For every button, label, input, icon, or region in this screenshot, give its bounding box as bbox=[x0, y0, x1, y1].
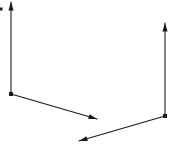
left-frame-diagonal-axis-arrow bbox=[11, 94, 97, 119]
right-frame-diagonal-axis-arrow bbox=[79, 116, 165, 141]
right-frame-vertical-axis-arrow-head bbox=[162, 23, 167, 32]
left-frame-diagonal-axis-arrow-head bbox=[88, 114, 97, 119]
stray-dot bbox=[0, 8, 3, 11]
coordinate-frames-diagram bbox=[0, 0, 173, 146]
diagram-canvas bbox=[0, 0, 173, 146]
right-frame-origin-dot bbox=[163, 114, 167, 118]
left-frame-origin-dot bbox=[9, 92, 13, 96]
left-frame-vertical-axis-arrow-head bbox=[8, 2, 13, 11]
right-frame-diagonal-axis-arrow-head bbox=[79, 136, 88, 141]
